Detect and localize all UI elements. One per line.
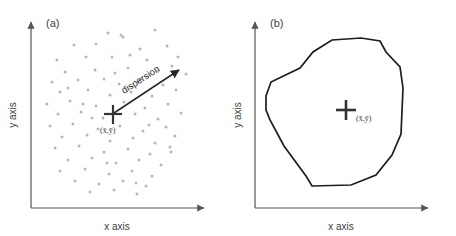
scatter-point: [87, 89, 90, 92]
scatter-point: [86, 134, 89, 137]
scatter-point: [95, 43, 98, 46]
scatter-point: [160, 164, 163, 167]
scatter-point: [180, 112, 183, 115]
scatter-point: [167, 103, 170, 106]
y-axis-label-b: y axis: [232, 102, 243, 128]
scatter-point: [154, 29, 157, 32]
hull-polygon: [266, 38, 403, 186]
scatter-point: [54, 147, 57, 150]
scatter-point: [148, 124, 151, 127]
scatter-point: [82, 103, 85, 106]
scatter-point: [64, 71, 67, 74]
scatter-point: [157, 118, 160, 121]
scatter-point: [129, 54, 132, 57]
x-axis-label-a: x axis: [104, 221, 130, 232]
scatter-point: [106, 162, 109, 165]
scatter-point: [80, 111, 83, 114]
scatter-point: [132, 137, 135, 140]
scatter-point: [78, 145, 81, 148]
scatter-point: [102, 117, 105, 120]
y-axis-label-a: y axis: [7, 102, 18, 128]
scatter-point: [171, 65, 174, 68]
scatter-point: [136, 193, 139, 196]
scatter-point: [59, 170, 62, 173]
scatter-point: [135, 182, 138, 185]
scatter-point: [73, 44, 76, 47]
scatter-point: [74, 180, 77, 183]
scatter-point: [134, 113, 137, 116]
scatter-point: [94, 69, 97, 72]
figure-container: (a) x axis y axis (x̄,ȳ) dispersion: [0, 0, 456, 236]
scatter-point: [185, 73, 188, 76]
scatter-point: [146, 59, 149, 62]
scatter-point: [122, 180, 125, 183]
scatter-point: [139, 48, 142, 51]
scatter-point: [51, 81, 54, 84]
scatter-point: [103, 78, 106, 81]
centroid-label-a: (x̄,ȳ): [100, 126, 116, 135]
scatter-point: [122, 36, 125, 39]
scatter-point: [46, 103, 49, 106]
scatter-point: [127, 148, 130, 151]
scatter-point: [89, 191, 92, 194]
scatter-point: [142, 130, 145, 133]
scatter-point: [109, 94, 112, 97]
scatter-point: [59, 91, 62, 94]
panel-label-a: (a): [46, 17, 59, 29]
panel-label-b: (b): [270, 17, 283, 29]
centroid-marker-a: [104, 105, 122, 124]
scatter-point: [107, 32, 110, 35]
scatter-point: [144, 107, 147, 110]
scatter-point: [67, 87, 70, 90]
x-axis-label-b: x axis: [328, 221, 354, 232]
scatter-point: [91, 157, 94, 160]
scatter-point: [56, 59, 59, 62]
scatter-point: [57, 113, 60, 116]
scatter-point: [151, 95, 154, 98]
scatter-point: [72, 123, 75, 126]
dispersion-label: dispersion: [119, 63, 161, 96]
scatter-point: [69, 100, 72, 103]
scatter-point: [49, 125, 52, 128]
scatter-point: [114, 72, 117, 75]
scatter-point: [77, 79, 80, 82]
scatter-point: [138, 159, 141, 162]
scatter-point: [84, 168, 87, 171]
scatter-point: [123, 101, 126, 104]
scatter-point: [85, 56, 88, 59]
scatter-point: [108, 173, 111, 176]
scatter-point: [166, 45, 169, 48]
scatter-point: [91, 117, 94, 120]
scatter-point: [169, 146, 172, 149]
scatter-point: [145, 185, 148, 188]
scatter-point: [119, 125, 122, 128]
scatter-point: [67, 159, 70, 162]
scatter-point: [165, 126, 168, 129]
scatter-point: [174, 135, 177, 138]
scatter-point: [113, 189, 116, 192]
scatter-point: [103, 151, 106, 154]
panel-b: (b) x axis y axis (x̄,ȳ): [228, 0, 456, 236]
scatter-point: [111, 56, 114, 59]
scatter-point: [98, 183, 101, 186]
centroid-marker-b: [336, 100, 356, 120]
scatter-point: [154, 142, 157, 145]
scatter-point: [109, 140, 112, 143]
scatter-point: [162, 84, 165, 87]
scatter-point: [149, 153, 152, 156]
scatter-point: [175, 89, 178, 92]
centroid-label-b: (x̄,ȳ): [356, 114, 372, 123]
scatter-point: [131, 170, 134, 173]
scatter-point: [151, 175, 154, 178]
scatter-point: [61, 136, 64, 139]
scatter-point: [127, 67, 130, 70]
panel-a: (a) x axis y axis (x̄,ȳ) dispersion: [0, 0, 228, 236]
scatter-point: [170, 151, 173, 154]
scatter-point: [115, 162, 118, 165]
scatter-point: [177, 56, 180, 59]
scatter-point: [95, 105, 98, 108]
